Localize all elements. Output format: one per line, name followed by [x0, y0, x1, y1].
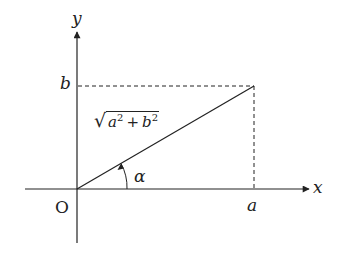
a-coordinate-label: a	[247, 197, 257, 214]
plus-operator: +	[123, 113, 142, 131]
diagram-svg	[0, 0, 342, 255]
angle-alpha-label: α	[134, 168, 145, 185]
b-coordinate-label: b	[60, 75, 71, 92]
origin-label: O	[55, 199, 69, 216]
exponent-b: 2	[152, 112, 158, 123]
x-axis-label: x	[313, 179, 323, 196]
radicand: a2+b2	[106, 111, 159, 131]
radicand-a: a	[108, 113, 117, 131]
hypotenuse-segment	[77, 86, 254, 189]
radicand-b: b	[142, 113, 152, 131]
hypotenuse-length-label: √a2+b2	[94, 111, 159, 130]
diagram-canvas: y x O b a α √a2+b2	[0, 0, 342, 255]
radical-sign: √	[94, 109, 106, 131]
y-axis-label: y	[72, 10, 82, 27]
